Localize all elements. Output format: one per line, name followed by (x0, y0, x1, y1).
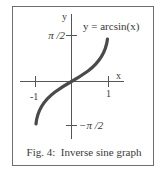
x-tick-label-neg-1: -1 (30, 91, 38, 102)
x-axis-label: x (116, 70, 121, 81)
equation-label: y = arcsin(x) (83, 20, 140, 33)
figure-caption: Fig. 4: Inverse sine graph (27, 146, 142, 158)
y-tick-label-neg-pi-half: −π /2 (79, 119, 104, 131)
y-axis-label: y (62, 11, 67, 22)
x-tick-label-pos-1: 1 (106, 88, 111, 99)
inverse-sine-figure: y x -1 1 π /2 −π /2 y = arcsin(x) Fig. 4… (0, 0, 161, 172)
y-tick-label-pi-half: π /2 (48, 29, 65, 41)
graph-canvas: y x -1 1 π /2 −π /2 y = arcsin(x) Fig. 4… (0, 0, 161, 172)
